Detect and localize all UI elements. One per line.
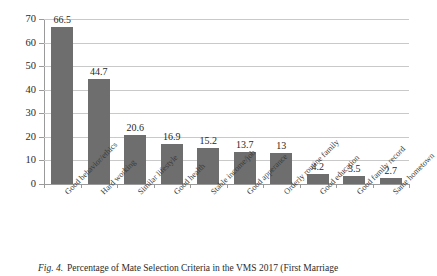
- bar-value-label: 44.7: [90, 67, 108, 77]
- caption-text: Percentage of Mate Selection Criteria in…: [67, 263, 338, 273]
- y-tick-label-70: 70: [0, 14, 36, 24]
- figure-caption: Fig. 4.Percentage of Mate Selection Crit…: [38, 262, 418, 274]
- y-tick-label-50: 50: [0, 61, 36, 71]
- bar-value-label: 66.5: [54, 15, 72, 25]
- y-tick-label-40: 40: [0, 85, 36, 95]
- bar[interactable]: [51, 27, 73, 184]
- x-tick-mark: [44, 184, 45, 188]
- y-tick-label-60: 60: [0, 38, 36, 48]
- x-tick-mark: [190, 184, 191, 188]
- bar-slot: 20.6: [117, 19, 154, 184]
- x-tick-mark: [263, 184, 264, 188]
- bar-slot: 15.2: [190, 19, 227, 184]
- y-tick-label-10: 10: [0, 155, 36, 165]
- y-tick-label-20: 20: [0, 132, 36, 142]
- bar-slot: 66.5: [44, 19, 81, 184]
- x-tick-mark: [409, 184, 410, 188]
- bar-value-label: 16.9: [163, 132, 181, 142]
- caption-label: Fig. 4.: [38, 263, 63, 273]
- bar-value-label: 15.2: [200, 136, 218, 146]
- x-tick-mark: [336, 184, 337, 188]
- y-tick-label-0: 0: [0, 179, 36, 189]
- bar-value-label: 20.6: [127, 123, 145, 133]
- bar-value-label: 13: [276, 141, 286, 151]
- x-tick-mark: [117, 184, 118, 188]
- y-tick-label-30: 30: [0, 108, 36, 118]
